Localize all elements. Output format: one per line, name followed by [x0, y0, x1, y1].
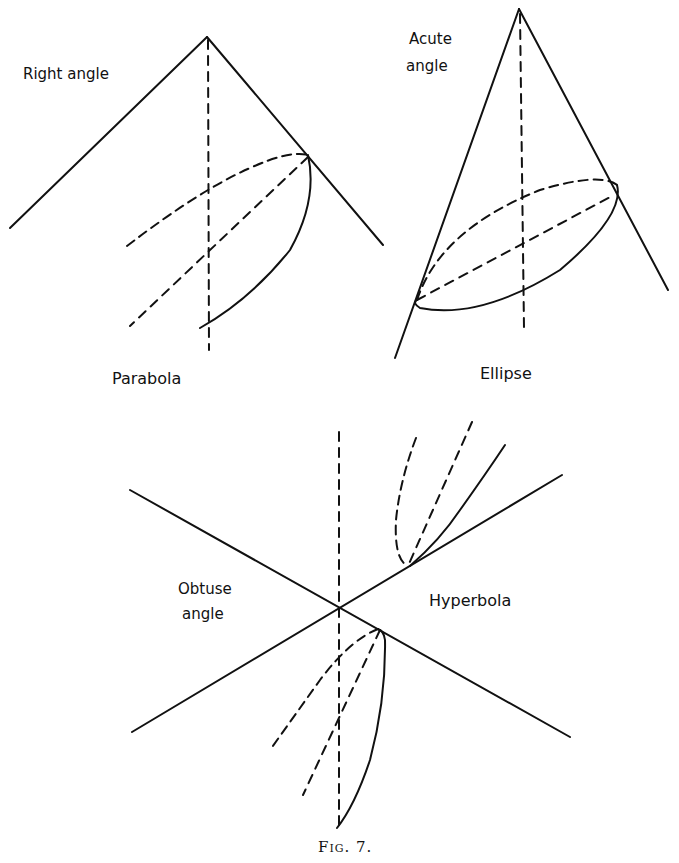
acute-label-line2: angle — [406, 57, 448, 76]
parabola-visible-arc — [200, 155, 311, 328]
obtuse-label-line2: angle — [182, 605, 224, 624]
conic-sections-diagram — [0, 0, 679, 863]
parabola-hidden-arc — [127, 154, 308, 246]
hyperbola-label: Hyperbola — [429, 591, 511, 610]
acute-label-line1: Acute — [409, 30, 452, 49]
parabola-axis — [130, 157, 308, 326]
figure-caption: Fig. 7. — [318, 838, 372, 856]
cone-axis — [208, 40, 209, 350]
figure-7: Right angle Parabola Acute angle Ellipse… — [0, 0, 679, 863]
cone-right-edge — [519, 9, 668, 290]
obtuse-label-line1: Obtuse — [178, 580, 232, 599]
upper-branch-hidden — [396, 438, 416, 566]
ellipse-label: Ellipse — [480, 364, 532, 383]
cone-right-edge — [207, 37, 383, 245]
lower-branch-visible — [337, 629, 385, 828]
cone-axis — [520, 14, 524, 328]
right-angle-label: Right angle — [23, 65, 109, 84]
parabola-label: Parabola — [112, 369, 181, 388]
lower-branch-hidden — [270, 629, 378, 750]
hyperbola-panel — [130, 422, 570, 828]
upper-branch-axis — [408, 422, 472, 566]
upper-branch-visible — [410, 445, 505, 566]
ellipse-hidden-arc — [417, 180, 617, 300]
